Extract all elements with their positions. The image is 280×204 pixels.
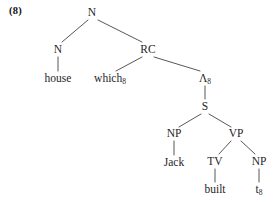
node-label: NP — [167, 127, 182, 139]
node-label: built — [204, 183, 225, 195]
tree-leaf-jack: Jack — [164, 157, 184, 169]
node-label: VP — [229, 127, 244, 139]
tree-node-root-n: N — [88, 7, 96, 19]
node-label: which — [94, 72, 122, 84]
tree-edge-rc-to-which — [116, 57, 142, 71]
node-label: TV — [207, 155, 222, 167]
tree-node-np-object: NP — [252, 156, 267, 168]
tree-node-left-n: N — [54, 44, 62, 56]
tree-node-np-subject: NP — [167, 128, 182, 140]
node-label: S — [202, 100, 208, 112]
tree-branch-lines — [0, 0, 280, 204]
node-subscript: 8 — [259, 188, 263, 197]
node-label: N — [54, 43, 62, 55]
node-subscript: 8 — [122, 77, 126, 86]
tree-leaf-built: built — [204, 184, 225, 196]
tree-leaf-house: house — [45, 73, 72, 85]
tree-node-s: S — [202, 101, 208, 113]
node-label: house — [45, 72, 72, 84]
tree-edge-s-to-vp — [209, 114, 231, 127]
node-subscript: 8 — [207, 77, 211, 86]
tree-edge-root-to-rc — [98, 20, 142, 42]
tree-edge-vp-to-tv — [219, 141, 231, 154]
tree-node-rc: RC — [140, 44, 155, 56]
tree-edge-vp-to-np-object — [241, 141, 255, 154]
node-label: NP — [252, 155, 267, 167]
tree-edge-root-to-left-n — [62, 20, 88, 42]
syntax-tree-figure: (8) N N house RC which8 Λ8 S NP Jack VP … — [0, 0, 280, 204]
tree-node-tv: TV — [207, 156, 222, 168]
node-label: RC — [140, 43, 155, 55]
tree-edge-s-to-np-subject — [179, 114, 201, 127]
tree-node-vp: VP — [229, 128, 244, 140]
tree-node-lambda: Λ8 — [199, 73, 211, 85]
tree-leaf-which: which8 — [94, 73, 126, 85]
node-label: N — [88, 6, 96, 18]
node-label: Jack — [164, 156, 184, 168]
tree-leaf-trace: t8 — [256, 184, 263, 196]
tree-edge-rc-to-lambda — [154, 57, 200, 71]
